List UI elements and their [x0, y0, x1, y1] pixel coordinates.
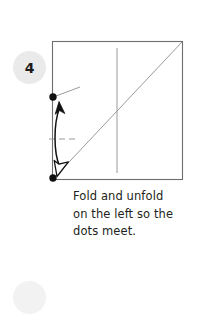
- upper-left-dot: [49, 93, 56, 100]
- caption-line-3: dots meet.: [73, 223, 197, 241]
- lower-left-dot: [49, 174, 56, 181]
- caption-line-2: on the left so the: [73, 206, 197, 224]
- step-caption: Fold and unfold on the left so the dots …: [73, 188, 197, 241]
- caption-line-1: Fold and unfold: [73, 188, 197, 206]
